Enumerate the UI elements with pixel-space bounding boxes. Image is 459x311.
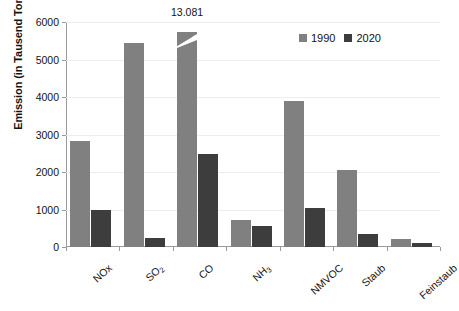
bar-Feinstaub-2020 bbox=[412, 243, 432, 247]
legend-label-1990: 1990 bbox=[311, 32, 335, 44]
x-axis-label-NMVOC: NMVOC bbox=[308, 262, 345, 297]
x-tick-mark bbox=[66, 247, 67, 251]
x-tick-mark bbox=[333, 247, 334, 251]
chart-legend: 1990 2020 bbox=[299, 32, 381, 44]
bars-layer bbox=[66, 22, 440, 247]
legend-entry-2020: 2020 bbox=[344, 32, 380, 44]
bar-NMVOC-1990 bbox=[284, 101, 304, 247]
bar-value-annotation: 13.081 bbox=[171, 6, 203, 18]
x-tick-mark bbox=[440, 247, 441, 251]
bar-CO-1990 bbox=[177, 37, 197, 247]
bar-CO-2020 bbox=[198, 154, 218, 247]
legend-label-2020: 2020 bbox=[356, 32, 380, 44]
x-axis-label-NH: NH3 bbox=[250, 262, 272, 284]
legend-swatch-icon-2020 bbox=[344, 34, 352, 42]
x-axis-label-Staub: Staub bbox=[359, 262, 387, 289]
x-tick-mark bbox=[226, 247, 227, 251]
x-axis-label-SO: SO2 bbox=[143, 262, 165, 284]
bar-SO-2020 bbox=[145, 238, 165, 247]
y-axis-title: Emission (in Tausend Tonnen) bbox=[12, 0, 24, 152]
y-tick-label: 2000 bbox=[36, 166, 59, 178]
x-tick-mark bbox=[119, 247, 120, 251]
x-tick-mark bbox=[280, 247, 281, 251]
x-tick-mark bbox=[387, 247, 388, 251]
x-axis-label-CO: CO bbox=[196, 262, 216, 281]
x-axis-label-Feinstaub: Feinstaub bbox=[417, 262, 459, 302]
bar-NH-1990 bbox=[231, 220, 251, 247]
y-tick-label: 3000 bbox=[36, 129, 59, 141]
bar-NOx-2020 bbox=[91, 210, 111, 247]
bar-NMVOC-2020 bbox=[305, 208, 325, 247]
bar-Feinstaub-1990 bbox=[391, 239, 411, 247]
x-tick-mark bbox=[173, 247, 174, 251]
bar-Staub-2020 bbox=[358, 234, 378, 247]
bar-SO-1990 bbox=[124, 43, 144, 247]
bar-NH-2020 bbox=[252, 226, 272, 247]
x-axis-label-NOx: NOx bbox=[90, 262, 114, 285]
plot-area: 0100020003000400050006000 13.081 bbox=[66, 22, 440, 247]
bar-NOx-1990 bbox=[70, 141, 90, 247]
bar-Staub-1990 bbox=[337, 170, 357, 247]
legend-entry-1990: 1990 bbox=[299, 32, 335, 44]
y-tick-label: 6000 bbox=[36, 16, 59, 28]
y-tick-label: 0 bbox=[53, 241, 59, 253]
y-tick-label: 5000 bbox=[36, 54, 59, 66]
legend-swatch-icon-1990 bbox=[299, 34, 307, 42]
y-tick-label: 4000 bbox=[36, 91, 59, 103]
y-tick-label: 1000 bbox=[36, 204, 59, 216]
